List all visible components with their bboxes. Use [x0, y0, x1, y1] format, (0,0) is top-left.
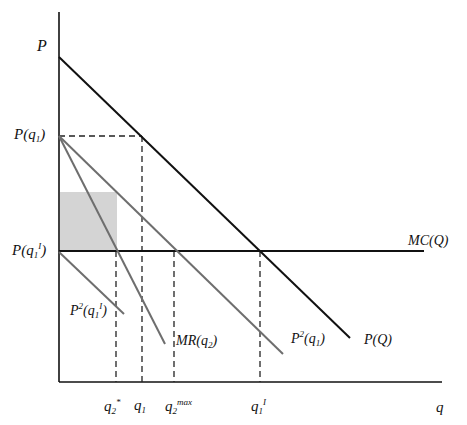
label-close: ) — [212, 333, 217, 348]
x-axis-label: q — [436, 400, 444, 415]
label-arg: (q — [304, 331, 316, 346]
label-text: P — [70, 303, 79, 318]
label-text: MR(q — [176, 333, 208, 348]
residual-demand-i-label: P2(q1I) — [70, 302, 107, 320]
marginal-revenue-label: MR(q2) — [176, 334, 217, 350]
tick-label-q2-max: q2max — [165, 398, 192, 416]
tick-sub: 1 — [142, 405, 147, 415]
tick-close: ) — [40, 126, 45, 142]
tick-sup: max — [177, 397, 192, 407]
tick-sub: 2 — [112, 406, 117, 416]
tick-text: q — [165, 398, 173, 414]
diagram-root: P P(q1) P(q1I) MC(Q) P2(q1I) MR(q2) P2(q… — [0, 0, 467, 425]
demand-label: P(Q) — [364, 333, 392, 347]
tick-label-q1: q1 — [134, 398, 146, 415]
tick-label-p-q1: P(q1) — [14, 127, 45, 144]
tick-sub: 1 — [259, 406, 264, 416]
tick-label-q2-star: q2* — [104, 398, 121, 416]
tick-text: P(q — [12, 242, 34, 258]
residual-demand-label: P2(q1) — [291, 330, 325, 348]
tick-text: q — [134, 397, 142, 413]
label-text: P — [291, 331, 300, 346]
tick-sub: 1 — [34, 250, 39, 260]
tick-label-p-q1-i: P(q1I) — [12, 242, 46, 260]
tick-label-q1-i: q1I — [251, 398, 266, 416]
label-close: ) — [102, 303, 107, 318]
label-sub: 1 — [95, 310, 100, 320]
label-arg: (q — [83, 303, 95, 318]
tick-sup: I — [263, 397, 266, 407]
tick-sup: * — [116, 397, 121, 407]
shaded-area — [60, 192, 117, 251]
tick-sub: 2 — [173, 406, 178, 416]
y-axis-label: P — [37, 38, 47, 54]
tick-close: ) — [41, 242, 46, 258]
mc-label: MC(Q) — [408, 234, 448, 248]
tick-text: P(q — [14, 126, 36, 142]
label-close: ) — [320, 331, 325, 346]
tick-text: q — [104, 398, 112, 414]
diagram-canvas — [0, 0, 467, 425]
tick-text: q — [251, 398, 259, 414]
